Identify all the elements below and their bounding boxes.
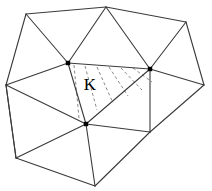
mesh-figure: K xyxy=(0,0,212,191)
figure-background xyxy=(0,0,212,191)
mesh-node-marker xyxy=(66,61,70,65)
mesh-node-marker xyxy=(148,67,152,71)
cell-k-label: K xyxy=(84,75,97,94)
mesh-diagram-svg: K xyxy=(0,0,212,191)
mesh-node-marker xyxy=(84,122,88,126)
